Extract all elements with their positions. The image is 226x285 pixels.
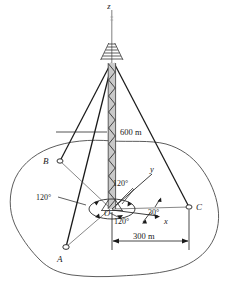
anchor-marker-b — [57, 159, 63, 163]
angle-30-arrow-upper — [158, 198, 162, 203]
guy-wire-a — [66, 63, 112, 247]
angle-label-lower-120: 120° — [114, 217, 129, 226]
angle-120-upper-leader-1 — [116, 188, 133, 205]
angle-120-left-leader-1 — [58, 197, 86, 205]
angle-label-x-30: 30° — [148, 208, 159, 217]
whisker-cone-left — [101, 43, 109, 60]
axis-label-x: x — [163, 216, 168, 226]
anchor-label-c: C — [196, 202, 203, 212]
anchor-marker-a — [63, 245, 69, 250]
dim-arrow-left — [113, 239, 120, 244]
angle-120-upper-leaders — [116, 188, 134, 205]
radius-line-b — [60, 161, 110, 208]
ellipse-arrow-upper-left — [94, 201, 99, 206]
anchor-label-b: B — [43, 156, 49, 166]
anchor-marker-c — [186, 205, 192, 209]
dim-arrow-right — [182, 239, 189, 244]
tower-diagram: z 600 m B A C 120° 120° 120° 30° y x O 3… — [0, 0, 226, 285]
origin-label: O — [104, 208, 110, 218]
angle-label-upper-120: 120° — [113, 179, 128, 188]
ground-radius-lines — [60, 161, 189, 247]
whisker-cone-right — [115, 43, 123, 60]
dimension-label-radius: 300 m — [133, 231, 155, 241]
angle-120-left-leader — [58, 197, 86, 205]
axis-label-y: y — [149, 164, 154, 174]
axis-label-z: z — [106, 1, 111, 11]
anchor-label-a: A — [56, 254, 63, 264]
guy-wire-b — [60, 63, 111, 161]
dimension-label-height: 600 m — [120, 127, 142, 137]
angle-label-left-120: 120° — [36, 193, 51, 202]
